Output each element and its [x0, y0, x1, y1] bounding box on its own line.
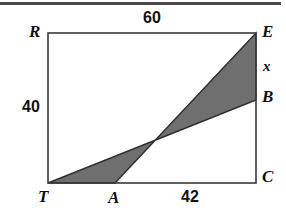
vertex-label-T: T — [38, 188, 48, 205]
vertex-label-A: A — [108, 189, 119, 206]
measure-label-top-60: 60 — [143, 10, 161, 26]
measure-label-left-40: 40 — [22, 99, 40, 115]
measure-label-bottom-42: 42 — [181, 189, 199, 205]
measure-label-x: x — [263, 59, 271, 74]
vertex-label-R: R — [29, 23, 40, 40]
shaded-parallelogram-TAEB — [48, 33, 256, 183]
vertex-label-E: E — [262, 23, 273, 40]
geometry-figure-canvas: R E x B C T A 60 40 42 — [0, 0, 286, 223]
vertex-label-C: C — [262, 168, 273, 185]
vertex-label-B: B — [262, 88, 273, 105]
